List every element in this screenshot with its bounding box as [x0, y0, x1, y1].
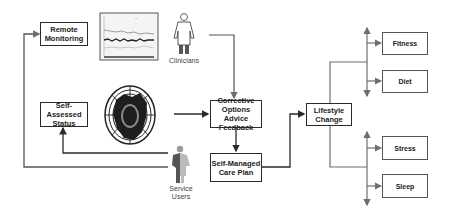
edge-lifestyle-upper-branch	[330, 62, 367, 103]
corrective-options-box: Corrective Options Advice Feedback	[210, 100, 262, 128]
edge-care-plan-to-lifestyle	[262, 114, 304, 167]
stress-box: Stress	[382, 136, 428, 160]
diet-box: Diet	[382, 70, 428, 93]
clinicians-label: Clinicians	[166, 57, 202, 65]
service-users-figure-icon	[172, 146, 190, 183]
self-managed-care-plan-box: Self-Managed Care Plan	[210, 153, 262, 182]
remote-monitoring-box: Remote Monitoring	[40, 22, 88, 46]
body-map-globe-image	[105, 86, 155, 144]
self-assessed-status-box: Self-Assessed Status	[40, 102, 88, 127]
service-users-label: Service Users	[164, 185, 198, 201]
edge-clinicians-to-corrective	[209, 35, 234, 98]
clinician-figure-icon	[174, 14, 194, 55]
fitness-box: Fitness	[382, 32, 428, 55]
sleep-box: Sleep	[382, 174, 428, 198]
lifestyle-change-box: Lifestyle Change	[306, 103, 352, 126]
edge-lifestyle-lower-branch	[330, 126, 367, 167]
monitoring-chart-image: ~	[100, 13, 158, 60]
